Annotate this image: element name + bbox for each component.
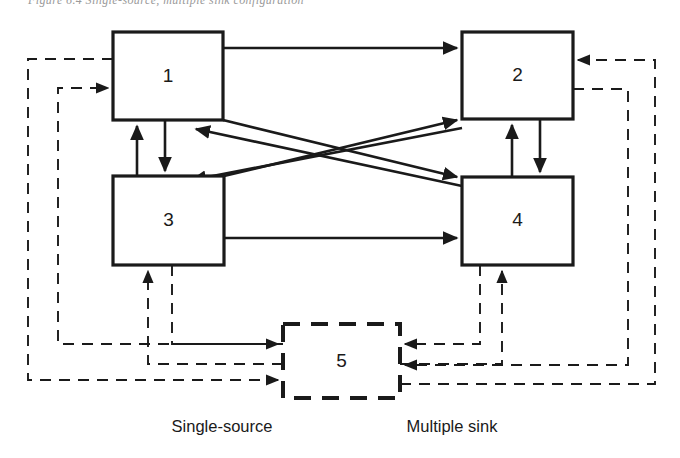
node-2-label: 2 bbox=[512, 64, 523, 85]
block-diagram-canvas: Figure 6.4 Single-source, multiple sink … bbox=[0, 0, 680, 458]
caption-single-source: Single-source bbox=[172, 417, 273, 435]
edge-4-to-1 bbox=[196, 129, 462, 186]
node-3[interactable]: 3 bbox=[113, 176, 224, 265]
node-2[interactable]: 2 bbox=[462, 32, 573, 119]
node-5[interactable]: 5 bbox=[283, 324, 400, 398]
caption-multiple-sink: Multiple sink bbox=[407, 417, 499, 435]
node-4[interactable]: 4 bbox=[462, 177, 573, 265]
edge-3-to-5 bbox=[172, 265, 278, 344]
node-5-label: 5 bbox=[336, 350, 347, 371]
diagram-svg: 1 2 3 4 5 Single-source Multiple sink bbox=[0, 0, 680, 458]
node-1[interactable]: 1 bbox=[113, 32, 223, 120]
node-4-label: 4 bbox=[512, 209, 523, 230]
edge-4-to-5 bbox=[405, 265, 480, 344]
figure-caption-fragment: Figure 6.4 Single-source, multiple sink … bbox=[28, 0, 304, 8]
node-3-label: 3 bbox=[163, 209, 174, 230]
node-1-label: 1 bbox=[163, 65, 174, 86]
edge-5-to-4 bbox=[400, 271, 502, 364]
edge-5-to-3 bbox=[148, 271, 283, 364]
